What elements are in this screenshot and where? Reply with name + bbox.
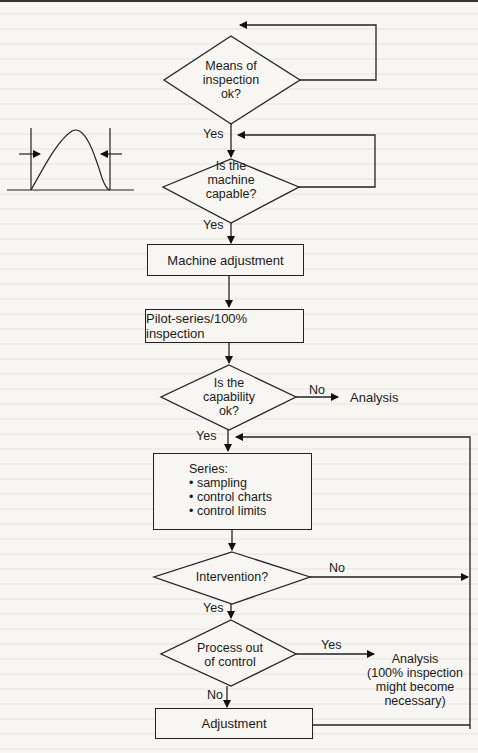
- series-content: Series: • sampling • control charts • co…: [189, 462, 272, 518]
- series-item-label: sampling: [197, 476, 247, 490]
- edge-label-yes: Yes: [203, 601, 223, 615]
- label-line: inspection: [195, 73, 267, 87]
- edge-label-yes: Yes: [203, 218, 223, 232]
- label-line: machine: [195, 173, 267, 187]
- series-item: • control limits: [189, 504, 272, 518]
- outcome-analysis-100-inspection: Analysis (100% inspection might become n…: [365, 652, 465, 708]
- decision-means-of-inspection: Means of inspection ok?: [195, 59, 267, 101]
- edge-label-yes: Yes: [203, 127, 223, 141]
- bullet-icon: •: [189, 476, 193, 490]
- bullet-icon: •: [189, 490, 193, 504]
- edge-label-no: No: [309, 383, 325, 397]
- bullet-icon: •: [189, 504, 193, 518]
- edge-label-yes: Yes: [196, 429, 216, 443]
- label-line: Is the: [195, 159, 267, 173]
- decision-intervention: Intervention?: [186, 570, 278, 584]
- decision-process-out-of-control: Process out of control: [190, 641, 270, 669]
- label-line: Means of: [195, 59, 267, 73]
- label-line: ok?: [195, 87, 267, 101]
- edge-label-no: No: [329, 561, 345, 575]
- decision-machine-capable: Is the machine capable?: [195, 159, 267, 201]
- process-machine-adjustment: Machine adjustment: [147, 244, 304, 276]
- series-item-label: control limits: [197, 504, 266, 518]
- outcome-analysis: Analysis: [350, 390, 398, 405]
- label-line: capability: [193, 390, 265, 404]
- process-pilot-series: Pilot-series/100% inspection: [145, 309, 304, 343]
- label-line: (100% inspection: [365, 666, 465, 680]
- series-item-label: control charts: [197, 490, 272, 504]
- label-line: Analysis: [365, 652, 465, 666]
- edge-label-yes: Yes: [321, 638, 341, 652]
- label-line: Process out: [190, 641, 270, 655]
- process-adjustment: Adjustment: [155, 708, 313, 739]
- series-title: Series:: [189, 462, 272, 476]
- series-item: • control charts: [189, 490, 272, 504]
- edge-label-no: No: [207, 688, 223, 702]
- label-line: of control: [190, 655, 270, 669]
- label-line: ok?: [193, 404, 265, 418]
- label-line: Is the: [193, 376, 265, 390]
- label-line: might become: [365, 680, 465, 694]
- series-item: • sampling: [189, 476, 272, 490]
- label-line: capable?: [195, 187, 267, 201]
- label-line: necessary): [365, 694, 465, 708]
- decision-capability-ok: Is the capability ok?: [193, 376, 265, 418]
- distribution-curve-sketch: [7, 128, 134, 190]
